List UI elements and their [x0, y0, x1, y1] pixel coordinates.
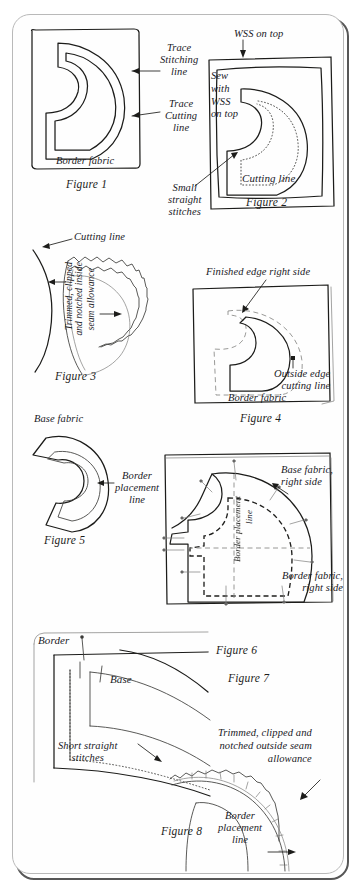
figure-7-leader-stitches: [136, 742, 166, 764]
figure-8-label-trimmed-clipped-notched: Trimmed, clipped and notched outside sea…: [218, 726, 312, 765]
figure-2-label-cutting-line: Cutting line: [242, 172, 295, 185]
figure-8-label-border-placement-line: Border placement line: [218, 810, 262, 846]
figure-1-label-trace-cutting-line: Trace Cutting line: [165, 98, 197, 134]
figure-6-caption: Figure 6: [216, 644, 257, 656]
figure-7-label-border: Border: [38, 634, 69, 647]
figure-3-caption: Figure 3: [55, 370, 96, 382]
figure-5-label-border-placement-line: Border placement line: [115, 470, 159, 506]
figure-4-label-border-fabric: Border fabric: [228, 392, 286, 404]
figure-2-leader-stitches: [193, 150, 241, 188]
figure-8-leader-placement-line: [266, 846, 300, 858]
figure-1-label-border-fabric: Border fabric: [56, 155, 114, 167]
figure-3-label-seam-allowance: seam allowance: [86, 268, 97, 330]
illustration-page: Border fabric Figure 1 Trace Stitching l…: [0, 0, 357, 896]
figure-3-leader-inner: [46, 276, 68, 288]
figure-4-caption: Figure 4: [240, 412, 281, 424]
figure-6-label-border-placement: Border placement: [232, 496, 242, 562]
figure-4-leader-outside-edge: [288, 356, 300, 370]
figure-7-label-short-straight-stitches: Short straight stitches: [58, 740, 117, 764]
figure-8-caption: Figure 8: [161, 825, 202, 837]
figure-3-label-notched-inside: and notched inside: [74, 262, 85, 336]
figure-5-caption: Figure 5: [44, 534, 85, 546]
figure-4-label-finished-edge: Finished edge right side: [206, 266, 310, 278]
figure-6-leader-base-fabric: [268, 480, 290, 496]
figure-1-leader-lines: [118, 60, 164, 130]
figure-6-label-line: line: [244, 510, 254, 524]
figure-5-leader-border-placement: [96, 477, 116, 489]
figure-7-label-base: Base: [110, 673, 132, 686]
figure-4-label-outside-edge-cutting-line: Outside edge cutting line: [274, 368, 330, 392]
figure-2-label-wss-on-top: WSS on top: [234, 28, 283, 40]
figure-8-leader-allowance: [298, 778, 324, 804]
figure-3-leader-outer: [98, 308, 126, 320]
figure-1-caption: Figure 1: [66, 178, 107, 190]
figure-6-label-border-fabric-right-side: Border fabric, right side: [282, 570, 343, 594]
figure-2-label-sew-with-wss: Sew with WSS on top: [211, 70, 238, 121]
figure-1-label-trace-stitching-line: Trace Stitching line: [160, 42, 198, 78]
figure-2-caption: Figure 2: [246, 196, 287, 208]
figure-5-label-base-fabric: Base fabric: [34, 413, 83, 425]
figure-7-caption: Figure 7: [228, 672, 269, 684]
